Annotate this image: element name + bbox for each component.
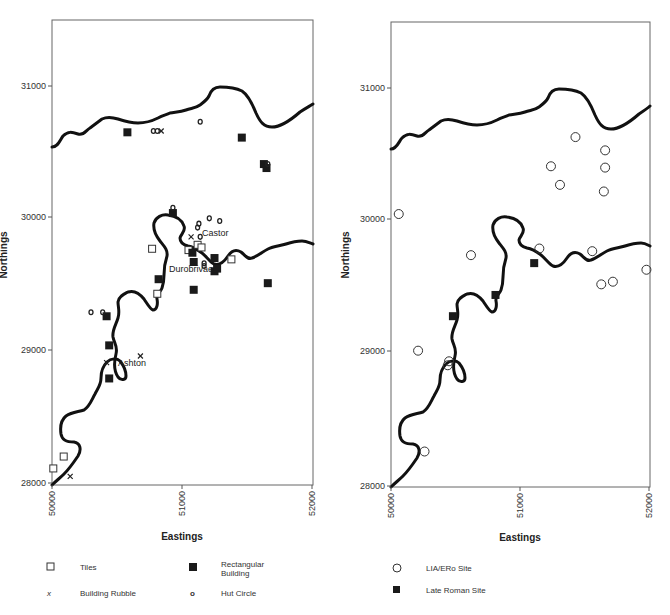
right-y-axis-title: Northings: [340, 231, 351, 279]
rectangular-building-marker: [238, 134, 246, 142]
lia-ero-site-marker: [420, 447, 429, 456]
tiles-marker: [60, 453, 67, 460]
rectangular-building-marker: [190, 286, 198, 294]
legend-rubble-label: Building Rubble: [80, 589, 137, 598]
left-ytick-29000: 29000: [21, 345, 46, 355]
hut-circle-legend-icon: o: [190, 589, 195, 598]
lia-ero-site-marker: [599, 187, 608, 196]
left-xtick-52000: 52000: [307, 491, 317, 516]
right-xtick-52000: 52000: [644, 493, 654, 518]
right-river-south: [391, 217, 650, 487]
right-ytick-29000: 29000: [360, 346, 385, 356]
lia-ero-site-marker: [546, 162, 555, 171]
left-map-panel: 31000 30000 29000 28000 50000 51000 5200…: [0, 20, 317, 542]
rectangular-building-marker: [123, 128, 131, 136]
hut-circle-marker: [198, 234, 202, 239]
right-site-markers: [394, 133, 651, 456]
lia-ero-site-marker: [535, 244, 544, 253]
left-plot-frame: [52, 20, 313, 485]
hut-circle-marker: [218, 219, 222, 224]
tiles-marker: [50, 465, 57, 472]
lia-ero-site-marker: [466, 251, 475, 260]
hut-circle-marker: [89, 310, 93, 315]
rectangular-building-marker: [190, 258, 198, 266]
left-river-north: [52, 87, 313, 147]
legend-tiles-label: Tiles: [80, 563, 97, 572]
hut-circle-marker: [198, 119, 202, 124]
right-ytick-30000: 30000: [360, 214, 385, 224]
late-roman-site-marker: [491, 291, 499, 299]
legend-rect-label-1: Rectangular: [221, 560, 264, 569]
hut-circle-marker: [207, 216, 211, 221]
lia-ero-site-marker: [597, 280, 606, 289]
legend-rect-label-2: Building: [221, 569, 249, 578]
left-xtick-51000: 51000: [177, 491, 187, 516]
lia-ero-site-marker: [608, 277, 617, 286]
building-rubble-marker: [189, 234, 194, 239]
rectangular-building-marker: [264, 279, 272, 287]
right-ytick-28000: 28000: [360, 481, 385, 491]
late-roman-site-marker: [449, 312, 457, 320]
rectangular-building-marker: [213, 265, 221, 273]
right-river-north: [391, 89, 650, 149]
left-x-axis: [52, 485, 312, 489]
right-ytick-31000: 31000: [360, 83, 385, 93]
building-rubble-legend-icon: x: [46, 589, 52, 598]
late-roman-site-legend-icon: [393, 586, 400, 593]
left-legend: Tiles Rectangular Building x Building Ru…: [46, 560, 264, 598]
legend-late-roman-label: Late Roman Site: [426, 586, 486, 595]
lia-ero-site-legend-icon: [393, 564, 401, 572]
rectangular-building-marker: [211, 254, 219, 262]
right-map-panel: 31000 30000 29000 28000 50000 51000 5200…: [340, 22, 654, 543]
right-legend: LIA/ERo Site Late Roman Site: [393, 564, 486, 595]
rectangular-building-marker: [155, 275, 163, 283]
tiles-marker: [154, 290, 161, 297]
rectangular-building-marker: [105, 341, 113, 349]
left-x-axis-title: Eastings: [161, 531, 203, 542]
late-roman-site-marker: [530, 259, 538, 267]
right-x-axis: [391, 487, 649, 491]
tiles-marker: [198, 244, 205, 251]
left-ytick-28000: 28000: [21, 478, 46, 488]
lia-ero-site-marker: [601, 163, 610, 172]
building-rubble-marker: [68, 474, 73, 479]
lia-ero-site-marker: [601, 146, 610, 155]
left-river-south: [52, 215, 313, 485]
right-xtick-51000: 51000: [515, 493, 525, 518]
hut-circle-marker: [155, 129, 159, 134]
legend-hut-label: Hut Circle: [221, 589, 257, 598]
figure: 31000 30000 29000 28000 50000 51000 5200…: [0, 0, 670, 615]
lia-ero-site-marker: [571, 133, 580, 142]
rectangular-building-marker: [103, 312, 111, 320]
tiles-marker: [149, 245, 156, 252]
rectangular-building-marker: [188, 249, 196, 257]
label-castor: Castor: [202, 228, 229, 238]
lia-ero-site-marker: [555, 180, 564, 189]
rectangular-building-marker: [105, 374, 113, 382]
lia-ero-site-marker: [414, 346, 423, 355]
label-ashton: Ashton: [118, 358, 146, 368]
rectangular-building-legend-icon: [189, 563, 197, 571]
left-ytick-30000: 30000: [21, 212, 46, 222]
right-xtick-50000: 50000: [386, 493, 396, 518]
right-x-axis-title: Eastings: [499, 532, 541, 543]
legend-lia-label: LIA/ERo Site: [426, 564, 472, 573]
tiles-marker: [228, 256, 235, 263]
left-site-markers: [50, 119, 272, 479]
left-y-axis: [48, 86, 52, 483]
lia-ero-site-marker: [588, 247, 597, 256]
lia-ero-site-marker: [394, 210, 403, 219]
left-xtick-50000: 50000: [47, 491, 57, 516]
right-plot-frame: [391, 22, 650, 487]
tiles-legend-icon: [47, 563, 54, 570]
left-y-axis-title: Northings: [0, 231, 9, 279]
left-ytick-31000: 31000: [21, 81, 46, 91]
